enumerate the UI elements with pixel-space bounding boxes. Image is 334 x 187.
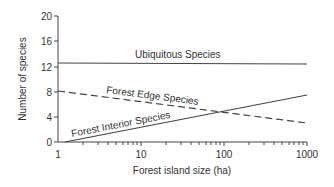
y-axis	[54, 16, 58, 142]
x-axis-label: Forest island size (ha)	[133, 165, 231, 176]
svg-text:1000: 1000	[296, 149, 319, 160]
svg-text:100: 100	[216, 149, 233, 160]
svg-text:4: 4	[46, 112, 52, 123]
x-tick-labels: 1 10 100 1000	[55, 149, 318, 160]
series-ubiquitous	[58, 63, 307, 64]
label-forest-edge: Forest Edge Species	[106, 84, 199, 107]
svg-text:20: 20	[41, 11, 53, 22]
y-tick-labels: 20 16 12 8 4 0	[41, 11, 53, 148]
svg-text:10: 10	[135, 149, 147, 160]
chart: 20 16 12 8 4 0 Number of species 1 10 10…	[0, 0, 334, 187]
svg-text:0: 0	[46, 137, 52, 148]
svg-text:12: 12	[41, 62, 53, 73]
y-axis-label: Number of species	[17, 37, 28, 120]
svg-text:1: 1	[55, 149, 61, 160]
x-axis	[58, 142, 307, 146]
svg-text:16: 16	[41, 36, 53, 47]
svg-text:8: 8	[46, 87, 52, 98]
label-ubiquitous: Ubiquitous Species	[135, 49, 221, 60]
